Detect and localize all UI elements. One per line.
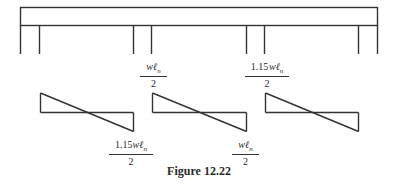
beam [21, 8, 378, 26]
diagram-canvas [0, 0, 398, 185]
shear-diagram-span-1 [41, 93, 134, 132]
label-span2-top-shear: wℓn 2 [140, 62, 167, 89]
label-span1-bottom-shear: 1.15wℓn 2 [109, 140, 153, 167]
figure-caption: Figure 12.22 [0, 164, 398, 179]
shear-diagram-span-3 [266, 93, 359, 132]
label-span2-bottom-shear: wℓn 2 [232, 140, 259, 167]
support-2 [134, 26, 152, 55]
support-1 [21, 26, 40, 55]
support-3 [247, 26, 265, 55]
label-span3-top-shear: 1.15 wℓn 2 [245, 62, 289, 89]
support-4 [359, 26, 378, 55]
shear-diagram-span-2 [153, 93, 247, 132]
